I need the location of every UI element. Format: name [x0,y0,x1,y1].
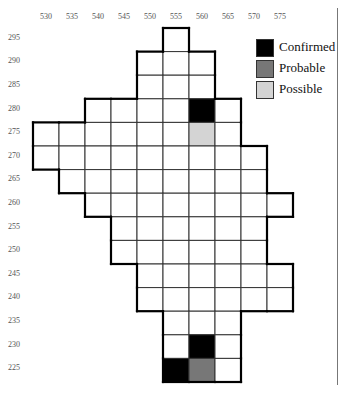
grid-cell [163,288,189,312]
grid-cell [163,75,189,99]
y-axis-label: 260 [8,197,32,209]
x-axis-label: 530 [33,12,59,21]
y-axis-label: 235 [8,315,32,327]
grid-cell [111,146,137,170]
grid-cell [111,122,137,146]
y-axis-label: 295 [8,32,32,44]
grid-cell [215,288,241,312]
grid-cell [163,193,189,217]
grid-cell [137,170,163,194]
grid-cell [241,288,267,312]
grid-cell [163,146,189,170]
x-axis-label: 540 [85,12,111,21]
grid-cell [163,170,189,194]
grid-cell [189,335,215,359]
y-axis-label: 275 [8,126,32,138]
grid-cell [59,122,85,146]
grid-cell [137,122,163,146]
legend-label: Possible [279,80,322,98]
grid-cell [163,311,189,335]
grid-cell [137,193,163,217]
grid-cell [163,240,189,264]
grid-cell [111,170,137,194]
y-axis-label: 240 [8,291,32,303]
x-axis-label: 555 [163,12,189,21]
grid-cell [215,240,241,264]
grid-cell [163,335,189,359]
grid-cell [241,264,267,288]
x-axis-label: 575 [267,12,293,21]
grid-cell [189,170,215,194]
grid-cell [163,264,189,288]
grid-cell [215,122,241,146]
legend-label: Confirmed [279,38,335,56]
grid-cell [85,146,111,170]
confirmed-swatch-icon [256,39,274,57]
grid-cell [189,217,215,241]
grid-cell [137,52,163,76]
grid-cell [267,288,293,312]
grid-cell [137,264,163,288]
grid-cell [189,264,215,288]
grid-cell [241,193,267,217]
legend-label: Probable [279,59,325,77]
grid-cell [267,264,293,288]
grid-cell [85,99,111,123]
x-axis-label: 550 [137,12,163,21]
grid-cell [241,170,267,194]
grid-cell [267,193,293,217]
y-axis-label: 265 [8,173,32,185]
grid-cell [215,217,241,241]
grid-cell [33,146,59,170]
grid-cell [163,99,189,123]
grid-cell [189,75,215,99]
x-axis-label: 565 [215,12,241,21]
grid-cell [215,335,241,359]
y-axis-label: 290 [8,55,32,67]
grid-cell [59,146,85,170]
grid-cell [111,217,137,241]
grid-cell [189,146,215,170]
grid-cell [189,288,215,312]
y-axis-label: 245 [8,268,32,280]
grid-cell [241,146,267,170]
grid-cell [85,193,111,217]
grid-cell [215,358,241,382]
y-axis-label: 270 [8,150,32,162]
grid-cell [189,122,215,146]
possible-swatch-icon [256,81,274,99]
grid-cell [163,122,189,146]
grid-cell [189,358,215,382]
y-axis-label: 280 [8,103,32,115]
grid-cell [163,28,189,52]
grid-cell [111,240,137,264]
grid-cell [215,170,241,194]
grid-cell [163,52,189,76]
grid-cell [189,193,215,217]
x-axis-label: 545 [111,12,137,21]
grid-cell [59,170,85,194]
grid-cell [85,122,111,146]
x-axis-label: 535 [59,12,85,21]
grid-cell [215,146,241,170]
grid-cell [111,193,137,217]
page-divider [337,8,338,385]
grid-cell [163,217,189,241]
grid-cell [215,193,241,217]
y-axis-label: 255 [8,221,32,233]
grid-cell [215,311,241,335]
grid-cell [163,358,189,382]
grid-cell [215,264,241,288]
grid-cell [241,240,267,264]
y-axis-label: 285 [8,79,32,91]
y-axis-label: 230 [8,339,32,351]
x-axis-label: 560 [189,12,215,21]
grid-cell [241,217,267,241]
grid-cell [33,122,59,146]
grid-cell [137,288,163,312]
grid-cell [137,75,163,99]
y-axis-label: 250 [8,244,32,256]
grid-cell [137,146,163,170]
grid-cell [137,240,163,264]
probable-swatch-icon [256,60,274,78]
